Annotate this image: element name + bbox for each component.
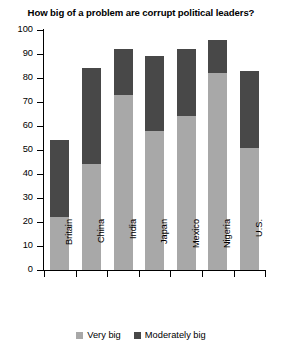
bar-segment	[82, 68, 101, 164]
x-axis-tick	[170, 271, 171, 277]
y-axis-tick	[37, 78, 44, 79]
y-axis-tick-label: 100	[0, 25, 33, 34]
y-axis-tick	[37, 30, 44, 31]
y-axis-tick-label: 10	[0, 241, 33, 250]
bar-segment	[177, 49, 196, 116]
y-axis-tick-label: 0	[0, 265, 33, 274]
y-axis-tick	[37, 270, 44, 271]
x-axis-label-britain: Britain	[64, 219, 74, 279]
legend-item[interactable]: Very big	[76, 330, 121, 340]
y-axis-tick	[37, 246, 44, 247]
y-axis-tick-label: 60	[0, 121, 33, 130]
y-axis-tick	[37, 198, 44, 199]
chart-container: How big of a problem are corrupt politic…	[0, 0, 282, 351]
y-axis-tick	[37, 54, 44, 55]
y-axis-tick-label: 90	[0, 49, 33, 58]
y-axis-tick-label: 50	[0, 145, 33, 154]
y-axis-tick-label: 30	[0, 193, 33, 202]
bar-segment	[208, 40, 227, 74]
x-axis-tick	[76, 271, 77, 277]
chart-title: How big of a problem are corrupt politic…	[0, 7, 282, 18]
y-axis-tick	[37, 102, 44, 103]
y-axis-tick-label: 20	[0, 217, 33, 226]
y-axis-tick-label: 80	[0, 73, 33, 82]
x-axis-tick	[107, 271, 108, 277]
x-axis-label-mexico: Mexico	[191, 219, 201, 279]
bar-segment	[50, 140, 69, 217]
legend-swatch-icon	[134, 332, 141, 339]
y-axis-tick	[37, 222, 44, 223]
x-axis-label-japan: Japan	[159, 219, 169, 279]
y-axis-tick	[37, 174, 44, 175]
x-axis-tick	[139, 271, 140, 277]
bar-segment	[145, 56, 164, 130]
x-axis-label-nigeria: Nigeria	[222, 219, 232, 279]
x-axis-label-china: China	[96, 219, 106, 279]
legend-label: Very big	[87, 330, 121, 340]
x-axis-tick	[202, 271, 203, 277]
y-axis-tick	[37, 150, 44, 151]
legend-swatch-icon	[76, 332, 83, 339]
chart-legend: Very bigModerately big	[0, 330, 282, 340]
y-axis-tick	[37, 126, 44, 127]
y-axis-tick-label: 70	[0, 97, 33, 106]
legend-item[interactable]: Moderately big	[134, 330, 206, 340]
bar-segment	[114, 49, 133, 95]
x-axis-tick	[44, 271, 45, 277]
x-axis-label-india: India	[128, 219, 138, 279]
y-axis-tick-label: 40	[0, 169, 33, 178]
x-axis-tick	[234, 271, 235, 277]
bar-segment	[240, 71, 259, 148]
x-axis-label-u-s: U.S.	[254, 219, 264, 279]
x-axis-tick	[265, 271, 266, 277]
legend-label: Moderately big	[145, 330, 206, 340]
